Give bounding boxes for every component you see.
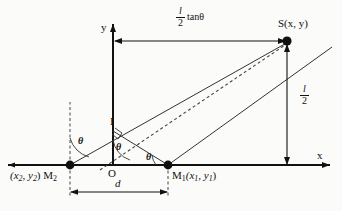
fraction-half-l-top: l 2 bbox=[176, 6, 185, 28]
x-axis-arrowhead bbox=[322, 162, 330, 168]
arrowhead-left-dim-top bbox=[114, 38, 122, 44]
point-M1-coords-open: (x bbox=[186, 169, 195, 181]
arrowhead-down-to-axis bbox=[284, 157, 290, 165]
fraction-denominator-2-right: 2 bbox=[300, 95, 309, 107]
fraction-numerator-l-right: l bbox=[300, 84, 309, 95]
fraction-numerator-l: l bbox=[176, 6, 185, 17]
tan-theta-text: tanθ bbox=[187, 12, 204, 23]
x-axis-label: x bbox=[317, 150, 323, 161]
fraction-denominator-2: 2 bbox=[176, 17, 185, 29]
y-axis-label: y bbox=[101, 22, 107, 33]
angle-label-theta-at-O: θ bbox=[116, 142, 121, 152]
point-M2-coords-mid: , y bbox=[23, 169, 33, 181]
dimension-label-half-l: l 2 bbox=[300, 84, 309, 106]
point-M2-subscript: 2 bbox=[53, 174, 57, 183]
point-S-label: S(x, y) bbox=[278, 18, 308, 29]
point-M1-coords-close: ) bbox=[213, 169, 217, 181]
ray-through-M2-I-S bbox=[70, 41, 290, 165]
angle-label-theta-at-M1: θ bbox=[146, 152, 151, 162]
point-M1-name: M bbox=[172, 169, 182, 181]
point-M1-label: M1(x1, y1) bbox=[172, 170, 216, 183]
point-S-dot bbox=[282, 36, 291, 45]
ray-from-M1 bbox=[168, 47, 332, 165]
y-axis-arrowhead bbox=[110, 24, 116, 32]
dashed-ray-O-to-S bbox=[100, 43, 288, 170]
point-M2-dot bbox=[66, 161, 75, 170]
point-M2-coords-open: (x bbox=[10, 169, 19, 181]
dimension-label-half-l-tan-theta: l 2 tanθ bbox=[176, 6, 204, 28]
segment-I-to-M1 bbox=[113, 131, 168, 165]
diagram-canvas: y x O S(x, y) I M1(x1, y1) (x2, y2) M2 θ… bbox=[0, 0, 342, 211]
point-M2-label: (x2, y2) M2 bbox=[10, 170, 57, 183]
arrowhead-right-dim-d bbox=[160, 189, 168, 195]
point-I-label: I bbox=[110, 116, 114, 127]
dimension-label-d: d bbox=[115, 178, 121, 189]
arrowhead-left-dim-d bbox=[70, 189, 78, 195]
x-axis-arrowhead-left bbox=[8, 163, 15, 168]
point-M1-coords-mid: , y bbox=[198, 169, 208, 181]
point-M2-name: M bbox=[43, 169, 53, 181]
angle-label-theta-at-M2: θ bbox=[78, 136, 83, 146]
